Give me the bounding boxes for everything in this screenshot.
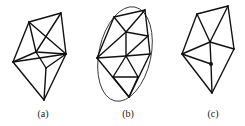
- mesh-edge: [97, 56, 126, 58]
- mesh-edge: [113, 77, 129, 97]
- mesh-edge: [97, 32, 126, 58]
- mesh-edge: [97, 17, 114, 58]
- mesh-edge: [210, 42, 234, 49]
- mesh-edge: [197, 14, 210, 42]
- mesh-edge: [148, 36, 150, 54]
- mesh-edge: [36, 52, 66, 54]
- mesh-edge: [126, 56, 138, 77]
- panel-c-label: (c): [207, 108, 218, 120]
- mesh-edge: [129, 54, 150, 97]
- mesh-edge: [113, 56, 126, 77]
- mesh-edge: [126, 32, 148, 36]
- mesh-edge: [13, 62, 44, 100]
- mesh-edge: [197, 6, 228, 14]
- mesh-edge: [36, 52, 46, 68]
- mesh-edge: [61, 13, 66, 54]
- inserted-point-marker: [209, 62, 213, 66]
- mesh-edge: [210, 6, 228, 42]
- mesh-edge: [29, 22, 66, 54]
- mesh-edge: [228, 6, 234, 49]
- mesh-edge: [126, 36, 148, 56]
- panel-a-mesh: [13, 13, 66, 100]
- panel-b-label: (b): [122, 108, 134, 120]
- panel-c-mesh-with-point: [182, 6, 234, 93]
- mesh-edge: [126, 54, 150, 56]
- mesh-edge: [145, 10, 148, 36]
- triangulation-diagram: (a) (b) (c): [0, 0, 245, 126]
- panel-a-label: (a): [37, 108, 48, 120]
- mesh-edge: [211, 64, 212, 93]
- mesh-edge: [210, 42, 211, 64]
- panel-b-mesh-with-ellipse: [90, 2, 161, 107]
- mesh-edge: [212, 49, 234, 93]
- mesh-edge: [114, 17, 126, 32]
